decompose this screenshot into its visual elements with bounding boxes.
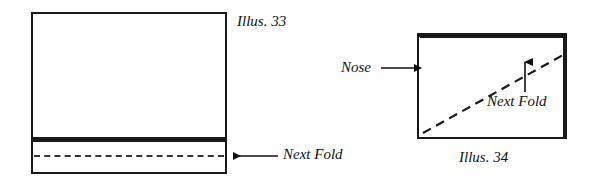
figure-canvas: Illus. 33 Next Fold Nose Next Fold Illus… (0, 0, 597, 184)
annotation-vector-layer (0, 0, 597, 184)
illus34-next-fold-dashed-line (423, 55, 563, 133)
